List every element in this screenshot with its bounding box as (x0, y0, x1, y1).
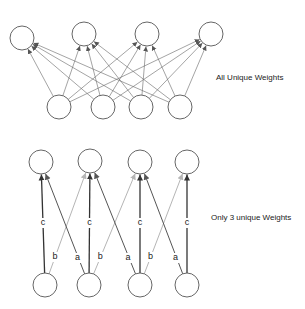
weight-label-b-3: b (148, 251, 153, 261)
weight-label-c-4: c (185, 217, 190, 227)
caption-only-3-unique-weights: Only 3 unique Weights (211, 213, 291, 222)
weight-label-c-1: c (41, 217, 46, 227)
edge-in3-out3 (142, 46, 146, 95)
output-node-3 (135, 22, 159, 46)
shared-output-node-1 (29, 150, 53, 174)
output-node-4 (199, 22, 223, 46)
input-node-2 (91, 95, 115, 119)
shared-output-node-2 (78, 149, 102, 173)
weight-label-a-1: a (75, 252, 80, 262)
edge-in2-out4 (113, 41, 201, 100)
weight-label-c-2: c (87, 217, 92, 227)
input-node-3 (129, 95, 153, 119)
edge-in3-out2 (92, 44, 134, 98)
shared-input-node-2 (77, 273, 101, 297)
shared-output-node-4 (175, 150, 199, 174)
shared-input-node-3 (128, 273, 152, 297)
edge-in1-out1 (28, 49, 53, 96)
output-node-1 (10, 26, 34, 50)
fully-connected-nodes (10, 22, 223, 119)
shared-input-node-1 (33, 273, 57, 297)
weight-label-c-3: c (138, 217, 143, 227)
edge-in1-out2 (63, 46, 80, 96)
weight-label-a-3: a (173, 252, 178, 262)
weight-label-b-2: b (98, 251, 103, 261)
output-node-2 (72, 22, 96, 46)
edge-in2-out2 (87, 46, 100, 95)
neural-net-diagram: All Unique Weights cbacbacbac Only 3 uni… (0, 0, 305, 309)
shared-weight-nodes (29, 149, 199, 297)
fully-connected-edges (28, 39, 206, 102)
shared-output-node-3 (128, 150, 152, 174)
weight-label-b-1: b (52, 251, 57, 261)
input-node-4 (168, 95, 192, 119)
edge-in4-out4 (185, 46, 206, 96)
weight-label-a-2: a (125, 252, 130, 262)
shared-weight-edges (41, 173, 187, 274)
edge-in4-out1 (33, 43, 169, 102)
edge-in4-out2 (94, 42, 170, 100)
edge-in3-out1 (33, 44, 131, 101)
input-node-1 (47, 95, 71, 119)
caption-all-unique-weights: All Unique Weights (216, 73, 283, 82)
shared-input-node-4 (175, 273, 199, 297)
edge-in1-out4 (70, 39, 200, 101)
